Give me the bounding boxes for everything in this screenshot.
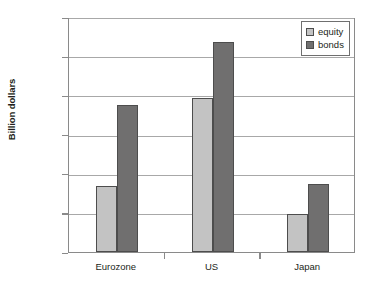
gridline bbox=[69, 96, 354, 97]
x-tick-mark bbox=[259, 253, 260, 259]
gridline bbox=[69, 57, 354, 58]
bar-equity-us bbox=[192, 98, 213, 252]
bar-bonds-eurozone bbox=[117, 105, 138, 252]
bar-bonds-japan bbox=[308, 184, 329, 252]
legend-label-bonds: bonds bbox=[318, 39, 344, 50]
x-tick-label-us: US bbox=[157, 261, 267, 273]
x-tick-label-japan: Japan bbox=[252, 261, 362, 273]
legend-item-bonds: bonds bbox=[306, 38, 344, 51]
y-axis-title: Billion dollars bbox=[6, 55, 17, 165]
x-tick-mark bbox=[164, 253, 165, 259]
legend-swatch-equity-icon bbox=[306, 28, 314, 36]
chart-legend: equity bonds bbox=[301, 21, 350, 56]
legend-swatch-bonds-icon bbox=[306, 41, 314, 49]
bar-equity-eurozone bbox=[96, 186, 117, 252]
bar-equity-japan bbox=[287, 214, 308, 252]
legend-label-equity: equity bbox=[318, 26, 343, 37]
legend-item-equity: equity bbox=[306, 25, 344, 38]
gridline bbox=[69, 18, 354, 19]
bar-chart: Billion dollars 30,00025,00020,00015,000… bbox=[0, 0, 381, 286]
x-tick-label-eurozone: Eurozone bbox=[61, 261, 171, 273]
bar-bonds-us bbox=[213, 42, 234, 252]
